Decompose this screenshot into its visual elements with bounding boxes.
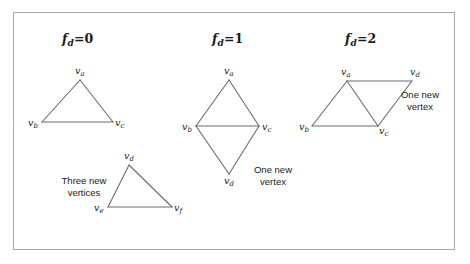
vertex-label-sub: c [267,126,271,134]
annotation-line-2: vertices [48,187,120,199]
annotation-line-1: One new [389,89,451,101]
shape-kite [196,80,259,174]
vertex-label-sub: d [415,71,419,79]
annotation-line-2: vertex [389,101,451,113]
panel-title-fd1: fd=1 [212,31,243,48]
vertex-label-sub: b [33,122,37,130]
panel-title-value: 2 [368,31,377,46]
vertex-label-ve: ve [94,203,104,215]
vertex-label-vf: vf [174,203,182,215]
figure-root: fd=0 fd=1 fd=2 va vb vc vd ve vf Three n… [0,0,470,264]
panel-title-equals: = [74,31,84,46]
vertex-label-vd-new: vd [124,151,134,163]
annotation-line-2: vertex [242,176,304,188]
vertex-label-sub: a [229,70,233,78]
panel-title-equals: = [224,31,234,46]
vertex-label-sub: d [229,180,233,188]
vertex-label-sub: d [129,155,133,163]
vertex-label-va-fd2: va [341,67,351,79]
vertex-label-vc-fd2: vc [379,126,388,138]
panel-title-value: 1 [235,31,244,46]
annotation-line-1: Three new [48,175,120,187]
vertex-label-sub: f [179,207,182,215]
annotation-one-new-vertex-fd1: One new vertex [242,164,304,187]
vertex-label-va-fd1: va [224,66,234,78]
annotation-one-new-vertex-fd2: One new vertex [389,89,451,112]
vertex-label-vb: vb [28,118,38,130]
vertex-label-sub: b [304,126,308,134]
panel-title-equals: = [357,31,367,46]
vertex-label-vb-fd1: vb [182,122,192,134]
panel-title-value: 0 [85,31,94,46]
vertex-label-sub: b [187,126,191,134]
vertex-label-sub: a [80,70,84,78]
shape-original-triangle [42,80,113,122]
vertex-label-sub: a [346,71,350,79]
vertex-label-sub: c [120,122,124,130]
vertex-label-sub: c [384,130,388,138]
panel-title-fd2: fd=2 [345,31,376,48]
vertex-label-vd-fd1: vd [224,176,234,188]
annotation-three-new-vertices: Three new vertices [48,175,120,198]
panel-title-fd0: fd=0 [62,31,93,48]
vertex-label-vc: vc [115,118,124,130]
annotation-line-1: One new [242,164,304,176]
vertex-label-vb-fd2: vb [299,122,309,134]
vertex-label-sub: e [99,207,103,215]
vertex-label-vd-fd2: vd [410,67,420,79]
vertex-label-vc-fd1: vc [262,122,271,134]
vertex-label-va: va [75,66,85,78]
